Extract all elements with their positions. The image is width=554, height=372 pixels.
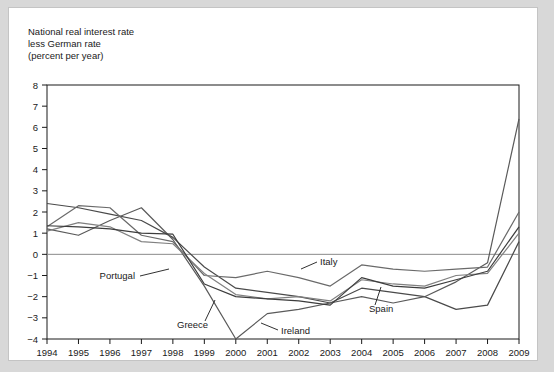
series-label-ireland: Ireland [281, 325, 310, 336]
y-axis-tick-label: 3 [33, 185, 38, 196]
x-axis-tick-labels: 1994199519961997199819992000200120022003… [36, 347, 529, 358]
y-axis-tick-label: 2 [33, 207, 38, 218]
y-axis-tick-label: 6 [33, 122, 38, 133]
series-label-italy: Italy [320, 256, 338, 267]
x-axis-tick-label: 1999 [194, 347, 215, 358]
y-axis-tick-label: 4 [33, 164, 38, 175]
x-axis-tick-label: 1995 [68, 347, 89, 358]
x-axis-tick-label: 2009 [508, 347, 529, 358]
figure-card: National real interest rate less German … [9, 8, 537, 360]
y-axis-tick-label: −1 [27, 270, 38, 281]
x-axis-tick-label: 2001 [257, 347, 278, 358]
x-axis-tick-label: 2007 [445, 347, 466, 358]
y-axis-tick-label: 7 [33, 101, 38, 112]
series-label-spain: Spain [369, 303, 393, 314]
x-axis-tick-label: 1994 [36, 347, 57, 358]
x-axis-tick-label: 2005 [383, 347, 404, 358]
x-axis-tick-label: 1997 [131, 347, 152, 358]
y-axis-tick-label: −3 [27, 312, 38, 323]
x-axis-ticks [47, 339, 519, 344]
y-axis-tick-label: 1 [33, 228, 38, 239]
x-axis-tick-label: 2004 [351, 347, 372, 358]
x-axis-tick-label: 2006 [414, 347, 435, 358]
x-axis-tick-label: 2003 [320, 347, 341, 358]
x-axis-tick-label: 1996 [99, 347, 120, 358]
series-label-portugal: Portugal [100, 270, 135, 281]
y-axis-ticks [42, 85, 47, 339]
line-chart: 876543210−1−2−3−4 1994199519961997199819… [9, 8, 537, 360]
x-axis-tick-label: 2002 [288, 347, 309, 358]
x-axis-tick-label: 2000 [225, 347, 246, 358]
plot-frame [47, 85, 519, 339]
y-axis-tick-label: −2 [27, 291, 38, 302]
page-root: National real interest rate less German … [0, 0, 554, 372]
y-axis-tick-label: 0 [33, 249, 38, 260]
x-axis-tick-label: 1998 [162, 347, 183, 358]
y-axis-tick-label: −4 [27, 334, 38, 345]
y-axis-tick-labels: 876543210−1−2−3−4 [27, 80, 38, 345]
series-label-greece: Greece [177, 319, 208, 330]
x-axis-tick-label: 2008 [477, 347, 498, 358]
y-axis-tick-label: 5 [33, 143, 38, 154]
y-axis-tick-label: 8 [33, 80, 38, 91]
